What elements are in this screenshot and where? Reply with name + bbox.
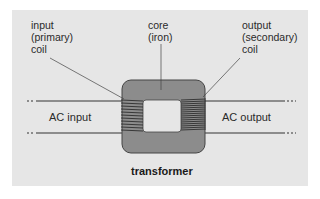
output-coil-label: output(secondary)coil [242,19,297,55]
ac-output-label: AC output [222,111,271,123]
core-label: core(iron) [148,19,173,43]
iron-core [122,80,205,153]
input-coil-label: input(primary)coil [31,19,73,55]
diagram-title: transformer [131,165,193,177]
ac-input-label: AC input [49,111,91,123]
